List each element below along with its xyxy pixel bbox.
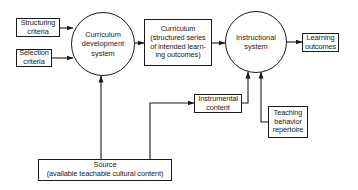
node-instructional-system: Instructional system: [225, 11, 287, 73]
node-label: Curriculum: [85, 30, 121, 39]
node-label: system: [91, 49, 114, 58]
node-label: outcomes: [305, 43, 336, 52]
node-teaching-behavior-repertoire: Teaching behavior repertoire: [268, 106, 308, 138]
node-label: ing outcomes): [155, 51, 200, 60]
node-label: criteria: [27, 28, 48, 37]
node-selection-criteria: Selection criteria: [16, 49, 52, 67]
node-label: (available teachable cultural content): [47, 170, 164, 179]
edge-source-to-instrumental: [150, 103, 194, 159]
node-label: repertoire: [273, 126, 304, 135]
node-label: development: [82, 39, 124, 48]
node-label: Instructional: [236, 33, 276, 42]
node-label: content: [206, 104, 230, 113]
edge-teaching-to-instructional: [261, 72, 268, 122]
node-label: criteria: [23, 58, 44, 67]
node-curriculum-development-system: Curriculum development system: [71, 12, 135, 76]
node-source: Source (available teachable cultural con…: [38, 159, 172, 181]
node-instrumental-content: Instrumental content: [194, 94, 242, 113]
node-curriculum: Curriculum (structured series of intende…: [144, 19, 212, 66]
diagram-canvas: Structuring criteria Selection criteria …: [0, 0, 358, 190]
node-learning-outcomes: Learning outcomes: [302, 33, 339, 52]
edge-instrumental-to-instructional: [242, 72, 248, 103]
node-label: system: [244, 42, 267, 51]
node-structuring-criteria: Structuring criteria: [16, 18, 60, 37]
